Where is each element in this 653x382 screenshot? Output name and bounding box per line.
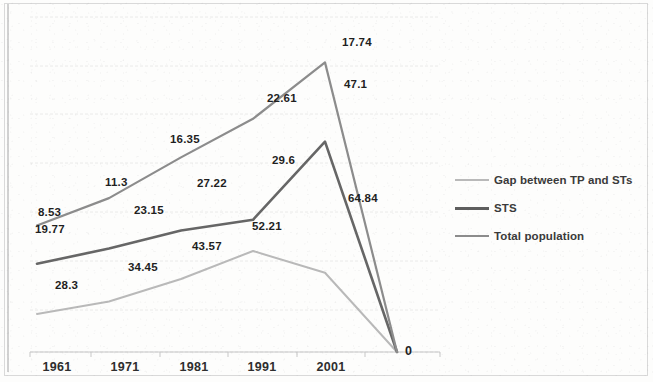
data-point-label: 8.53 [38, 206, 61, 218]
data-point-label: 27.22 [197, 177, 227, 189]
legend-item-label: Total population [494, 230, 584, 242]
legend-line-swatch-icon [455, 235, 489, 237]
data-point-label: 29.6 [272, 154, 295, 166]
data-point-label: 43.57 [192, 240, 222, 252]
x-axis-ticks [30, 352, 440, 357]
legend-line-swatch-icon [455, 179, 489, 181]
data-point-label: 17.74 [342, 36, 372, 48]
data-point-label: 19.77 [35, 223, 65, 235]
data-point-label: 11.3 [105, 176, 128, 188]
zero-data-label: 0 [405, 344, 412, 358]
legend-item[interactable]: STS [455, 194, 651, 222]
data-point-label: 52.21 [252, 220, 282, 232]
x-axis-tick-label: 1991 [247, 360, 276, 374]
series-line [37, 251, 397, 352]
series-line [37, 62, 397, 352]
data-point-label: 23.15 [134, 204, 164, 216]
x-axis-tick-label: 2001 [316, 360, 345, 374]
series-lines [37, 62, 397, 352]
x-axis-labels: 19611971198119912001 [0, 360, 440, 380]
data-point-label: 47.1 [344, 78, 367, 90]
data-point-label: 64.84 [348, 192, 378, 204]
data-point-label: 22.61 [267, 92, 297, 104]
legend-item[interactable]: Total population [455, 222, 651, 250]
x-axis-tick-label: 1981 [179, 360, 208, 374]
legend-line-swatch-icon [455, 207, 489, 210]
x-axis-tick-label: 1971 [110, 360, 139, 374]
chart-legend: Gap between TP and STsSTSTotal populatio… [455, 166, 651, 250]
figure-page: 19611971198119912001 8.5311.316.3522.611… [0, 0, 653, 382]
legend-item-label: STS [494, 202, 517, 214]
data-point-label: 16.35 [170, 133, 200, 145]
legend-item[interactable]: Gap between TP and STs [455, 166, 651, 194]
legend-item-label: Gap between TP and STs [494, 174, 633, 186]
data-point-label: 28.3 [55, 279, 78, 291]
x-axis-tick-label: 1961 [42, 360, 71, 374]
data-point-label: 34.45 [128, 261, 158, 273]
